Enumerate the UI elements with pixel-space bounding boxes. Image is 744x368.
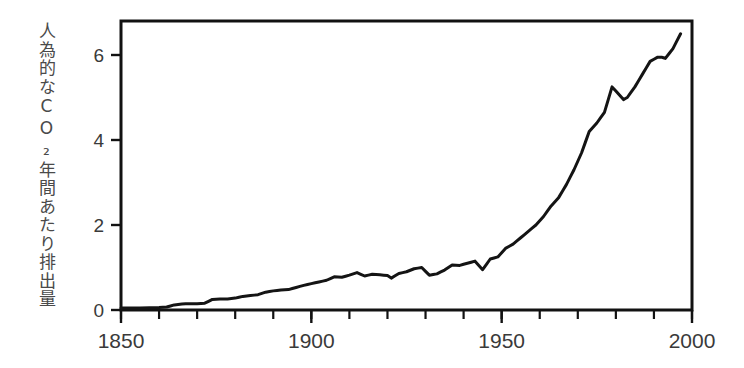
y-tick-label: 2: [93, 215, 104, 236]
chart-canvas: 1850190019502000 0246: [0, 0, 744, 368]
data-series-line: [121, 34, 681, 308]
y-tick-label: 6: [93, 45, 104, 66]
x-tick-label: 1900: [288, 329, 335, 352]
x-tick-label: 2000: [669, 329, 716, 352]
x-tick-label: 1950: [478, 329, 525, 352]
y-tick-label: 0: [93, 300, 104, 321]
plot-frame: [121, 21, 692, 310]
y-axis-tick-labels: 0246: [93, 45, 104, 321]
x-axis-tick-labels: 1850190019502000: [98, 329, 716, 352]
y-tick-label: 4: [93, 130, 104, 151]
x-axis-major-ticks: [121, 310, 692, 323]
chart-figure: 人為的なCO₂年間あたり排出量 1850190019502000 0246: [0, 0, 744, 368]
x-tick-label: 1850: [98, 329, 145, 352]
